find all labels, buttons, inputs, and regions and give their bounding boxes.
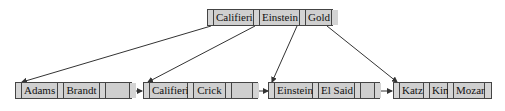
- root-pointer-0: [22, 26, 211, 82]
- root-node: Califieri Einstein Gold: [207, 9, 333, 26]
- leaf-node: Califieri Crick: [143, 82, 258, 99]
- bplus-tree-diagram: Califieri Einstein Gold Adams Brandt Cal…: [0, 0, 505, 111]
- root-key: Einstein: [260, 10, 300, 25]
- leaf-key: Kim: [430, 83, 448, 98]
- root-pointer-1: [148, 26, 255, 82]
- leaf-key: [361, 83, 375, 98]
- leaf-key: [106, 83, 130, 98]
- leaf-key: Crick: [194, 83, 226, 98]
- root-pointer-3: [327, 26, 397, 82]
- leaf-key: Einstein: [275, 83, 313, 98]
- pointer-cell: [130, 83, 136, 98]
- leaf-key: Mozart: [454, 83, 485, 98]
- root-pointer-2: [272, 26, 297, 82]
- root-key: Gold: [306, 10, 332, 25]
- leaf-node: Einstein El Said: [268, 82, 380, 99]
- root-key: Califieri: [214, 10, 254, 25]
- leaf-node: Adams Brandt: [15, 82, 132, 99]
- leaf-key: Califieri: [150, 83, 188, 98]
- leaf-key: [232, 83, 253, 98]
- leaf-node: Katz Kim Mozart: [393, 82, 492, 99]
- pointer-cell: [253, 83, 259, 98]
- leaf-key: Adams: [22, 83, 58, 98]
- leaf-key: El Said: [319, 83, 355, 98]
- pointer-cell: [332, 10, 338, 25]
- pointer-cell: [485, 83, 491, 98]
- leaf-key: Katz: [400, 83, 424, 98]
- pointer-cell: [375, 83, 381, 98]
- leaf-key: Brandt: [64, 83, 100, 98]
